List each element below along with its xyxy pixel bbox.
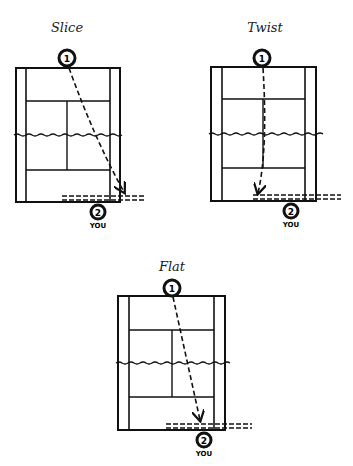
- svg-text:2: 2: [95, 208, 101, 218]
- net-line: [14, 134, 122, 136]
- slice-server-marker: 1: [59, 50, 75, 66]
- twist-baseline-position: [253, 195, 341, 199]
- flat-server-marker: 1: [164, 280, 180, 296]
- twist-receiver-marker: 2 YOU: [282, 204, 300, 229]
- flat-court: [116, 296, 230, 430]
- svg-text:2: 2: [288, 207, 294, 217]
- you-label: YOU: [195, 450, 213, 458]
- flat-receiver-marker: 2 YOU: [195, 433, 213, 458]
- serve-diagrams: 1 2 YOU 1 2 YOU: [0, 0, 353, 466]
- twist-server-marker: 1: [254, 50, 270, 66]
- svg-text:1: 1: [259, 54, 265, 64]
- net-line: [116, 362, 230, 364]
- svg-text:2: 2: [201, 436, 207, 446]
- flat-baseline-position: [166, 424, 252, 428]
- you-label: YOU: [282, 221, 300, 229]
- net-line: [209, 133, 323, 135]
- you-label: YOU: [89, 222, 107, 230]
- slice-court: [14, 68, 122, 202]
- svg-text:1: 1: [169, 284, 175, 294]
- slice-baseline-position: [62, 196, 145, 200]
- flat-ball-path: [173, 297, 200, 420]
- slice-receiver-marker: 2 YOU: [89, 205, 107, 230]
- svg-text:1: 1: [64, 54, 70, 64]
- slice-ball-path: [69, 68, 124, 192]
- twist-court: [209, 67, 323, 201]
